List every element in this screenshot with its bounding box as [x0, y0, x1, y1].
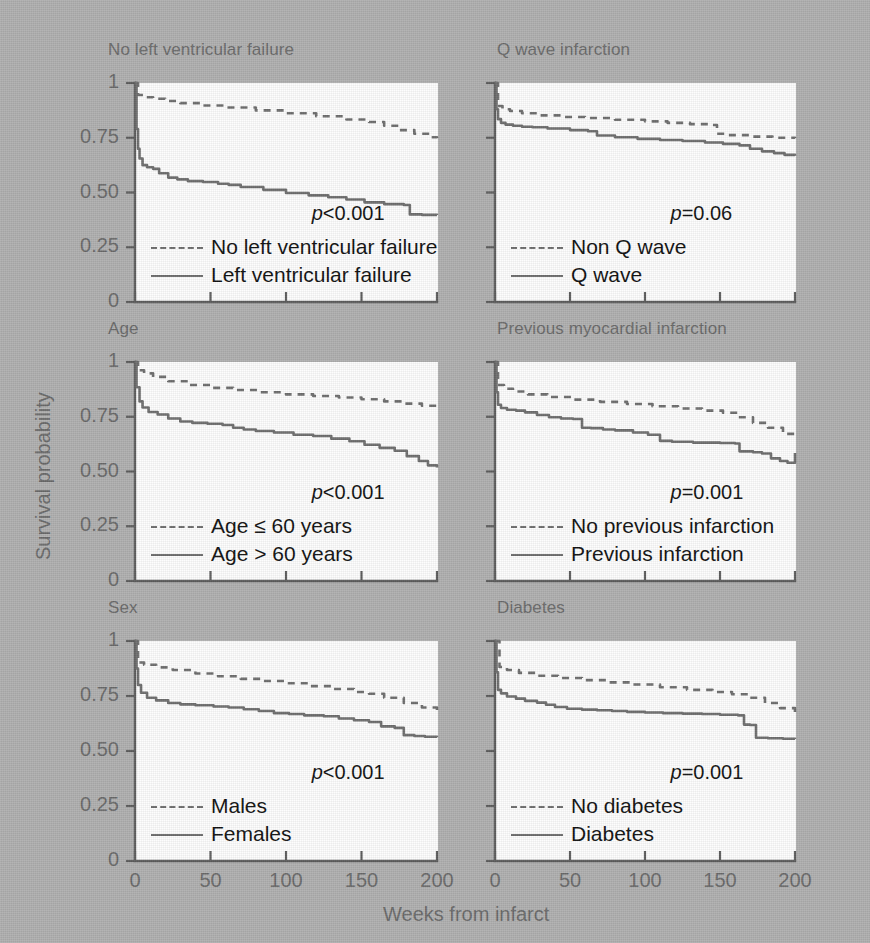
- legend-item: Diabetes: [511, 820, 683, 848]
- legend-solid-line-icon: [511, 829, 563, 839]
- legend-dashed-line-icon: [511, 801, 563, 811]
- legend-label: No diabetes: [563, 794, 683, 818]
- p-comparison: =0.001: [682, 761, 744, 783]
- p-value-annotation: p=0.001: [671, 761, 744, 784]
- x-tick-label: 200: [765, 869, 825, 892]
- x-tick-label: 0: [465, 869, 525, 892]
- x-tick-label: 50: [540, 869, 600, 892]
- legend: No diabetesDiabetes: [511, 792, 683, 848]
- p-symbol: p: [671, 761, 682, 783]
- legend-item: No diabetes: [511, 792, 683, 820]
- panel-diabetes: Diabetes050100150200p=0.001No diabetesDi…: [0, 0, 870, 943]
- x-tick-label: 150: [690, 869, 750, 892]
- figure-root: Survival probability Weeks from infarct …: [0, 0, 870, 943]
- x-tick-label: 100: [615, 869, 675, 892]
- panel-title: Diabetes: [497, 598, 565, 618]
- legend-label: Diabetes: [563, 822, 654, 846]
